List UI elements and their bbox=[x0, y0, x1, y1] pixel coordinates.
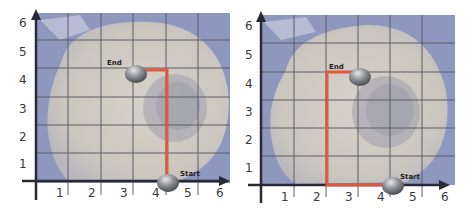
x-tick-2: 2 bbox=[88, 186, 96, 200]
y-tick-2: 2 bbox=[19, 130, 27, 144]
x-tick-1: 1 bbox=[281, 190, 289, 204]
y-tick-1: 1 bbox=[245, 161, 253, 175]
x-tick-2: 2 bbox=[313, 190, 321, 204]
y-tick-2: 2 bbox=[245, 133, 253, 147]
x-tick-5: 5 bbox=[409, 190, 417, 204]
y-tick-5: 5 bbox=[19, 45, 27, 59]
x-tick-4: 4 bbox=[377, 190, 385, 204]
end-marker bbox=[125, 65, 147, 83]
y-tick-6: 6 bbox=[245, 19, 253, 33]
x-tick-3: 3 bbox=[345, 190, 353, 204]
y-tick-3: 3 bbox=[19, 102, 27, 116]
y-tick-5: 5 bbox=[245, 48, 253, 62]
x-tick-4: 4 bbox=[152, 186, 160, 200]
x-tick-5: 5 bbox=[184, 186, 192, 200]
end-marker bbox=[349, 68, 371, 86]
y-tick-1: 1 bbox=[19, 157, 27, 171]
end-label: End bbox=[329, 63, 344, 71]
right-grid-map: End Start 1 2 3 4 5 6 1 2 3 4 5 6 bbox=[236, 0, 472, 216]
right-panel: End Start 1 2 3 4 5 6 1 2 3 4 5 6 bbox=[236, 0, 472, 216]
start-label: Start bbox=[400, 173, 421, 181]
y-tick-4: 4 bbox=[19, 73, 27, 87]
left-panel: End Start 1 2 3 4 5 6 1 2 3 4 5 6 bbox=[0, 0, 236, 216]
x-tick-3: 3 bbox=[120, 186, 128, 200]
y-tick-3: 3 bbox=[245, 105, 253, 119]
left-grid-map: End Start 1 2 3 4 5 6 1 2 3 4 5 6 bbox=[0, 0, 236, 216]
y-tick-6: 6 bbox=[19, 16, 27, 30]
x-tick-1: 1 bbox=[56, 186, 64, 200]
x-tick-6: 6 bbox=[216, 186, 224, 200]
x-tick-6: 6 bbox=[441, 190, 449, 204]
start-label: Start bbox=[180, 170, 201, 178]
y-tick-4: 4 bbox=[245, 77, 253, 91]
start-marker bbox=[157, 174, 179, 192]
end-label: End bbox=[107, 59, 122, 67]
